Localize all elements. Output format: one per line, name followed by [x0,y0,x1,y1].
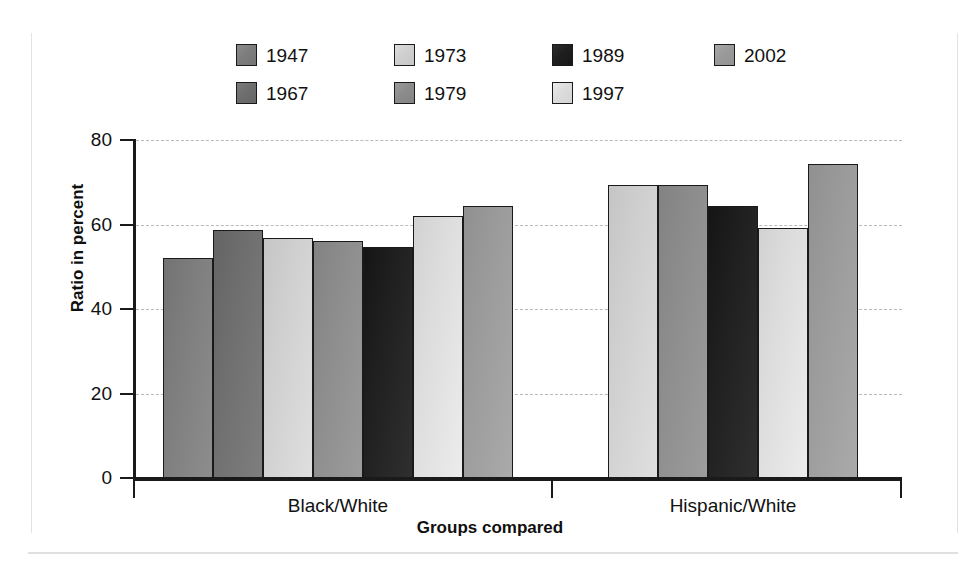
bar-1997-Black-White[interactable] [413,216,463,478]
y-axis-tick-label: 60 [68,215,112,234]
y-axis-tick-label: 20 [68,384,112,403]
bar-1979-Black-White[interactable] [313,241,363,478]
gridline [136,225,902,226]
bar-2002-Hispanic-White[interactable] [808,164,858,478]
y-axis-tick [120,393,133,395]
y-axis-tick-label: 80 [68,130,112,149]
bar-1973-Hispanic-White[interactable] [608,185,658,478]
y-axis-tick [120,224,133,226]
bar-1973-Black-White[interactable] [263,238,313,478]
x-axis-group-label: Black/White [103,495,573,517]
y-axis-tick [120,477,133,479]
bar-chart: Ratio in percent Groups compared 0204060… [0,0,980,570]
x-axis-title: Groups compared [0,518,980,538]
bar-1979-Hispanic-White[interactable] [658,185,708,478]
y-axis-tick-label: 40 [68,299,112,318]
x-axis-group-label: Hispanic/White [548,495,918,517]
bar-1947-Black-White[interactable] [163,258,213,478]
bar-1989-Black-White[interactable] [363,247,413,478]
bar-1997-Hispanic-White[interactable] [758,228,808,478]
gridline [136,140,902,141]
bar-1989-Hispanic-White[interactable] [708,206,758,478]
bar-2002-Black-White[interactable] [463,206,513,478]
y-axis-tick [120,139,133,141]
y-axis-tick-label: 0 [68,468,112,487]
y-axis-title: Ratio in percent [68,148,88,348]
bar-1967-Black-White[interactable] [213,230,263,478]
y-axis-tick [120,308,133,310]
